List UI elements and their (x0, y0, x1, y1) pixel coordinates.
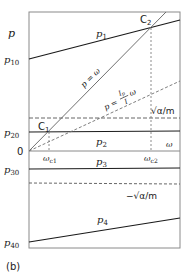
curve-p2 (29, 131, 180, 132)
svg-text:ω: ω (128, 87, 138, 98)
y-axis-label: p (8, 27, 15, 40)
label-p1: p1 (96, 28, 107, 41)
label-sqrt-alpha-m: √α/m (151, 106, 174, 116)
label-p4: p4 (97, 214, 108, 227)
origin-label: 0 (17, 146, 23, 157)
label-p-equals-ratio-omega: p = Ip I ω (100, 83, 140, 115)
diagram-canvas: p p10 p20 0 p30 p40 p1 p2 p3 p4 C2 C1 p … (0, 0, 191, 280)
x-axis-label: ω (166, 140, 173, 149)
point-c2: C2 (140, 14, 151, 27)
tick-wc1: ωc1 (43, 154, 57, 164)
tick-p10: p10 (4, 54, 19, 67)
svg-text:I: I (122, 97, 129, 106)
label-p-equals-omega: p = ω (79, 66, 102, 89)
tick-p20: p20 (4, 127, 19, 140)
panel-label: (b) (6, 261, 20, 272)
plot-frame (29, 12, 180, 248)
tick-p40: p40 (4, 237, 19, 250)
label-p3: p3 (96, 156, 107, 169)
tick-p30: p30 (4, 164, 19, 177)
label-p2: p2 (96, 136, 107, 149)
tick-wc2: ωc2 (144, 154, 158, 164)
line-neg-sqrt-alpha-m (29, 183, 180, 184)
label-neg-sqrt-alpha-m: −√α/m (126, 191, 157, 201)
